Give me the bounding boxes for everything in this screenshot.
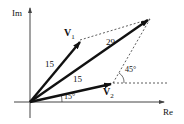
real-axis-label: Re: [163, 108, 173, 117]
v2-magnitude-label: 15: [73, 75, 82, 84]
v1-label: V1: [64, 28, 75, 41]
angle-45-label: 45°: [125, 66, 136, 74]
v1-magnitude-label: 15: [45, 60, 54, 69]
imag-axis-label: Im: [12, 9, 22, 18]
phasor-diagram: [0, 0, 184, 124]
resultant-magnitude-label: 29: [106, 38, 115, 47]
angle-15-label: 15°: [64, 93, 75, 101]
angle-arc-45: [119, 73, 124, 83]
v2-label: V2: [103, 87, 114, 100]
